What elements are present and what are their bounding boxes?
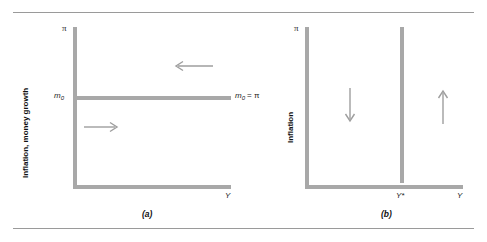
- downward-inflation-arrow: [344, 88, 356, 126]
- panel-a-x-axis: [73, 185, 231, 189]
- panel-a-y-axis-value-sub: 0: [61, 95, 64, 101]
- bottom-divider-rule: [13, 228, 474, 229]
- panel-b-potential-output-label: Y*: [396, 192, 404, 200]
- top-divider-rule: [13, 12, 474, 13]
- upward-inflation-arrow: [437, 88, 449, 126]
- panel-a-line-label: m0= π: [235, 92, 259, 100]
- panel-b-x-axis-label: Y: [457, 192, 462, 200]
- panel-a-y-axis-top-label: π: [62, 24, 67, 33]
- panel-a-line-label-suffix: = π: [247, 91, 259, 100]
- panel-b-y-axis: [305, 27, 309, 189]
- panel-a-y-axis-value-base: m: [54, 91, 61, 100]
- panel-a-line-label-base: m: [235, 91, 242, 100]
- panel-a-y-axis-value-label: m0: [54, 92, 64, 100]
- panel-b-caption: (b): [381, 210, 392, 219]
- panel-b-y-axis-top-label: π: [294, 24, 299, 33]
- panel-b-potential-output-line: [400, 27, 404, 183]
- panel-b-x-axis: [305, 185, 463, 189]
- panel-a-caption: (a): [142, 210, 152, 219]
- rightward-adjustment-arrow: [84, 121, 122, 133]
- leftward-adjustment-arrow: [170, 60, 214, 72]
- figure-container: Inflation, money growth π m0 m0= π Y: [0, 0, 487, 242]
- panel-a-x-axis-label: Y: [225, 192, 230, 200]
- panel-a-money-growth-line: [73, 96, 231, 100]
- panel-a-y-axis: [73, 27, 77, 189]
- panel-a-line-label-sub: 0: [242, 95, 245, 101]
- panel-a-y-axis-title: Inflation, money growth: [22, 88, 30, 178]
- panel-b-y-axis-title: Inflation: [287, 112, 295, 143]
